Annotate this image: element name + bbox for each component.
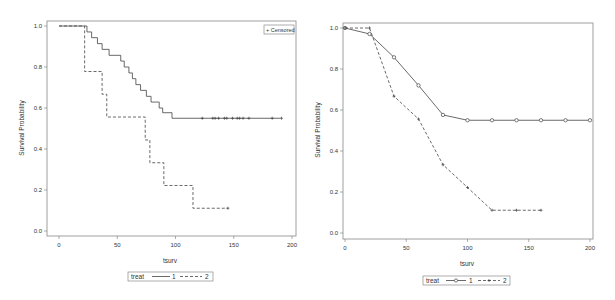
- x-tick-label: 100: [462, 245, 473, 251]
- x-tick-label: 200: [287, 242, 298, 248]
- right-y-axis-label: Survival Probability: [314, 102, 322, 158]
- right-chart: 0.00.20.40.60.81.0 050100150200 Survival…: [314, 23, 596, 285]
- left-legend-series-1: 1: [172, 273, 176, 280]
- y-tick-label: 0.6: [330, 107, 339, 113]
- plus-marker-icon: [393, 95, 396, 98]
- circle-marker-icon: [392, 56, 395, 59]
- y-tick-label: 0.2: [330, 189, 339, 195]
- x-tick-label: 200: [585, 245, 596, 251]
- censored-legend-label: + Censored: [266, 27, 295, 33]
- x-tick-label: 150: [524, 245, 535, 251]
- plus-marker-icon: [368, 27, 371, 30]
- censor-plus-icon: [231, 117, 234, 120]
- left-legend-title: treat: [131, 273, 144, 280]
- circle-marker-icon: [466, 119, 469, 122]
- censor-plus-icon: [225, 117, 228, 120]
- y-tick-label: 0.4: [330, 148, 339, 154]
- left-y-axis: 0.00.20.40.60.81.0: [34, 23, 47, 234]
- plus-marker-icon: [442, 163, 445, 166]
- y-tick-label: 0.0: [330, 230, 339, 236]
- x-tick-label: 0: [57, 242, 61, 248]
- circle-marker-icon: [417, 84, 420, 87]
- left-x-axis-label: tsurv: [163, 257, 178, 264]
- y-tick-label: 1.0: [34, 23, 43, 29]
- series-1-line: [345, 28, 590, 120]
- y-tick-label: 0.8: [330, 66, 339, 72]
- left-chart: 0.00.20.40.60.81.0 050100150200 Survival…: [18, 21, 298, 281]
- circle-marker-icon: [368, 32, 371, 35]
- series-2-line: [345, 28, 541, 210]
- x-tick-label: 150: [229, 242, 240, 248]
- circle-marker-icon: [515, 119, 518, 122]
- censor-plus-icon: [226, 207, 229, 210]
- right-legend-series-1: 1: [469, 277, 473, 284]
- left-legend-series-2: 2: [205, 273, 209, 280]
- circle-marker-icon: [490, 119, 493, 122]
- left-y-axis-label: Survival Probability: [18, 100, 26, 156]
- censor-plus-icon: [271, 117, 274, 120]
- y-tick-label: 0.4: [34, 146, 43, 152]
- circle-marker-icon: [588, 119, 591, 122]
- y-tick-label: 1.0: [330, 25, 339, 31]
- censored-legend: + Censored: [264, 25, 295, 34]
- series-1-line: [59, 26, 280, 118]
- x-tick-label: 0: [343, 245, 347, 251]
- right-legend-series-2: 2: [503, 277, 507, 284]
- plus-marker-icon: [417, 118, 420, 121]
- right-x-axis: 050100150200: [343, 239, 595, 251]
- right-legend: treat 1 2: [423, 276, 510, 285]
- x-tick-label: 50: [403, 245, 410, 251]
- right-plot-area: [343, 26, 591, 211]
- y-tick-label: 0.8: [34, 64, 43, 70]
- circle-marker-icon: [539, 119, 542, 122]
- censor-plus-icon: [242, 117, 245, 120]
- left-x-axis: 050100150200: [57, 236, 297, 248]
- right-y-axis: 0.00.20.40.60.81.0: [330, 25, 343, 236]
- circle-marker-icon: [564, 119, 567, 122]
- left-legend: treat 1 2: [128, 272, 213, 281]
- right-legend-title: treat: [426, 277, 439, 284]
- x-tick-label: 50: [114, 242, 121, 248]
- plus-marker-icon: [515, 209, 518, 212]
- plus-marker-icon: [540, 209, 543, 212]
- figure: 0.00.20.40.60.81.0 050100150200 Survival…: [0, 0, 615, 300]
- censor-plus-icon: [238, 117, 241, 120]
- y-tick-label: 0.0: [34, 228, 43, 234]
- right-legend-circle-marker-icon: [454, 279, 457, 282]
- censor-plus-icon: [201, 117, 204, 120]
- x-tick-label: 100: [170, 242, 181, 248]
- left-plot-area: [59, 26, 283, 210]
- censor-plus-icon: [214, 117, 217, 120]
- censor-plus-icon: [247, 117, 250, 120]
- censor-plus-icon: [217, 117, 220, 120]
- y-tick-label: 0.6: [34, 105, 43, 111]
- y-tick-label: 0.2: [34, 187, 43, 193]
- right-plot-frame: [343, 23, 593, 239]
- censor-plus-icon: [280, 117, 283, 120]
- right-x-axis-label: tsurv: [460, 260, 475, 267]
- circle-marker-icon: [441, 113, 444, 116]
